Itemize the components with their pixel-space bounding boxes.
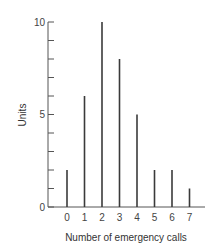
x-tick-label: 7 [187,212,193,223]
y-tick-label: 5 [39,109,45,120]
x-axis: 01234567 [48,207,205,223]
x-tick-label: 4 [134,212,140,223]
x-tick-label: 6 [169,212,175,223]
y-axis: 0510 [34,17,54,213]
x-tick-label: 5 [152,212,158,223]
x-tick-label: 0 [64,212,70,223]
bars [67,22,190,207]
x-tick-label: 2 [99,212,105,223]
y-axis-title: Units [17,104,28,127]
y-tick-label: 10 [34,17,46,28]
y-tick-label: 0 [39,202,45,213]
x-tick-label: 3 [117,212,123,223]
x-tick-label: 1 [82,212,88,223]
x-axis-title: Number of emergency calls [65,232,187,243]
bar-chart: 0510 01234567 Number of emergency calls … [0,0,213,250]
